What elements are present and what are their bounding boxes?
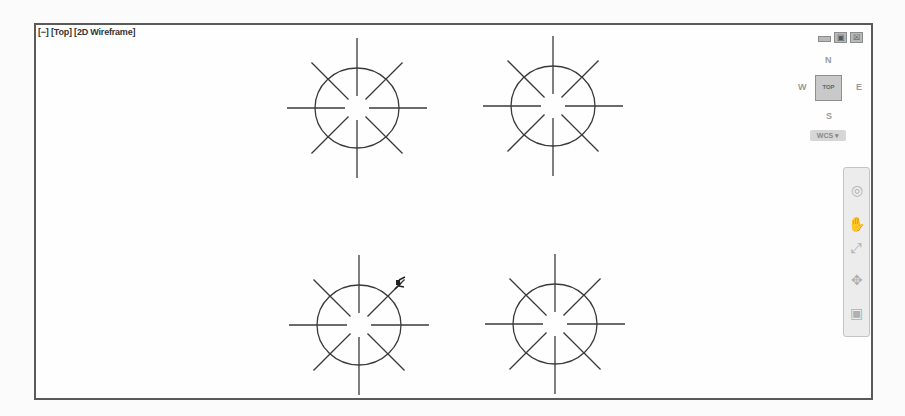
light-fixture-symbol[interactable]: [287, 38, 427, 178]
restore-icon: ▣: [837, 33, 845, 42]
orbit-icon[interactable]: ✥: [847, 270, 866, 290]
viewport-label: [−] [Top] [2D Wireframe]: [38, 27, 135, 37]
close-button[interactable]: ☒: [850, 32, 863, 43]
restore-button[interactable]: ▣: [834, 32, 847, 43]
visual-style-menu[interactable]: [2D Wireframe]: [74, 27, 135, 37]
pan-icon[interactable]: ✋: [847, 214, 866, 234]
light-fixture-symbol[interactable]: [289, 255, 429, 395]
compass-east[interactable]: E: [856, 82, 862, 92]
drawing-canvas[interactable]: [36, 25, 875, 402]
view-menu[interactable]: [Top]: [51, 27, 72, 37]
ucs-menu-button[interactable]: WCS ▾: [810, 130, 846, 141]
compass-west[interactable]: W: [798, 82, 807, 92]
compass-south[interactable]: S: [826, 111, 832, 121]
light-fixture-symbol[interactable]: [483, 36, 623, 176]
compass-north[interactable]: N: [825, 55, 832, 65]
viewcube[interactable]: N W TOP E S WCS ▾: [788, 49, 868, 139]
viewport-window-controls: ▣ ☒: [818, 32, 863, 43]
navigation-bar: ◎ ✋ ⤢ ✥ ▣: [843, 167, 870, 337]
cursor-icon: [395, 277, 405, 289]
zoom-icon[interactable]: ⤢: [847, 238, 866, 258]
showmotion-icon[interactable]: ▣: [847, 303, 866, 323]
minimize-button[interactable]: [818, 36, 831, 42]
close-icon: ☒: [853, 33, 860, 42]
viewcube-top-face[interactable]: TOP: [815, 75, 842, 101]
drawing-viewport[interactable]: [−] [Top] [2D Wireframe] ▣ ☒ N W TOP E S…: [34, 23, 873, 400]
steering-wheel-icon[interactable]: ◎: [847, 180, 866, 200]
light-fixture-symbol[interactable]: [485, 254, 625, 394]
viewport-controls-menu[interactable]: [−]: [38, 27, 49, 37]
separator: [854, 203, 858, 207]
